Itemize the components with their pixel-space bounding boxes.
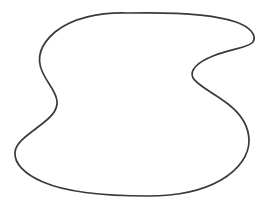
figure-canvas — [0, 0, 269, 215]
closed-curve-svg — [0, 0, 269, 215]
